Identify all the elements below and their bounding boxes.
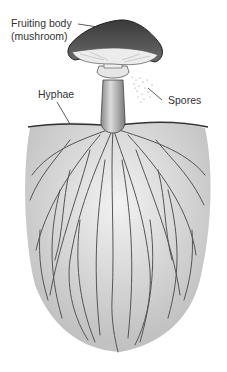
hyphae-leader [57,102,70,124]
cap [68,20,163,65]
spores-leader [148,88,162,100]
hyphae-label: Hyphae [38,88,74,100]
mycelium-hyphae [25,122,210,352]
fruiting-body-leader [78,24,98,27]
mushroom-diagram [0,0,227,372]
spores-label: Spores [168,94,201,106]
mushroom-label: (mushroom) [11,30,68,42]
fruiting-body-label: Fruiting body [11,17,72,29]
